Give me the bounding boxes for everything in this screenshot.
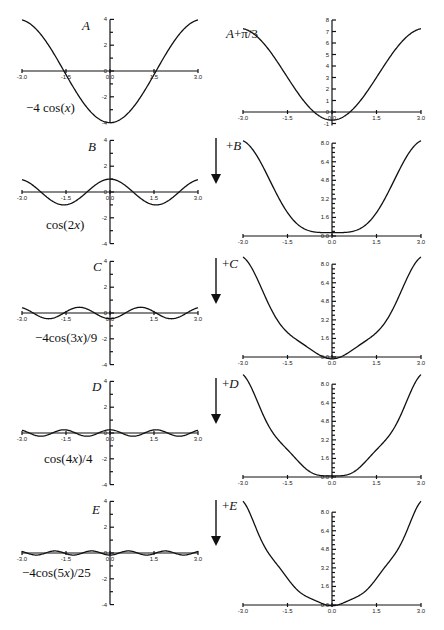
y-tick-label: -2 bbox=[102, 576, 108, 582]
y-tick-label: 4 bbox=[104, 378, 108, 384]
x-tick-label: -3.0 bbox=[17, 195, 28, 201]
x-tick-label: 3.0 bbox=[417, 239, 426, 245]
add-term-label: +B bbox=[226, 138, 241, 153]
x-tick-label: 3.0 bbox=[194, 556, 203, 562]
x-tick-label: 1.5 bbox=[372, 115, 381, 121]
function-label: −4cos(3x)/9 bbox=[35, 330, 97, 345]
x-tick-label: -3.0 bbox=[17, 316, 28, 322]
y-tick-label: 6.4 bbox=[321, 280, 330, 286]
y-tick-label: 2 bbox=[104, 524, 108, 530]
x-tick-label: 0.0 bbox=[328, 360, 337, 366]
y-tick-label: 1.6 bbox=[321, 455, 330, 461]
right-column-partial-sum-plots: -1012345678-3.0-1.50.01.53.00.01.63.24.8… bbox=[238, 17, 426, 614]
plot-left-C: -4-2024-3.0-1.50.01.53.0 bbox=[17, 258, 203, 367]
x-tick-label: 3.0 bbox=[417, 360, 426, 366]
x-tick-label: -1.5 bbox=[282, 360, 293, 366]
x-tick-label: 1.5 bbox=[372, 360, 381, 366]
y-tick-label: 8.0 bbox=[321, 381, 330, 387]
function-label: −4 cos(x) bbox=[26, 100, 75, 115]
x-tick-label: 1.5 bbox=[150, 556, 159, 562]
plot-right-B: 0.01.63.24.86.48.0-3.0-1.50.01.53.0 bbox=[238, 140, 426, 245]
y-tick-label: 8.0 bbox=[321, 140, 330, 146]
x-tick-label: -1.5 bbox=[282, 480, 293, 486]
y-tick-label: 2 bbox=[104, 404, 108, 410]
down-arrow-icon: +D bbox=[211, 376, 239, 424]
y-tick-label: 6.4 bbox=[321, 400, 330, 406]
x-tick-label: 0.0 bbox=[328, 480, 337, 486]
x-tick-label: 3.0 bbox=[194, 74, 203, 80]
y-tick-label: 3.2 bbox=[321, 196, 330, 202]
y-tick-label: 4.8 bbox=[321, 177, 330, 183]
panel-labels: A−4 cos(x)Bcos(2x)C−4cos(3x)/9Dcos(4x)/4… bbox=[22, 18, 258, 580]
x-tick-label: -3.0 bbox=[238, 480, 249, 486]
y-tick-label: 2 bbox=[104, 284, 108, 290]
y-tick-label: 4.8 bbox=[321, 546, 330, 552]
panel-letter-label: D bbox=[91, 379, 102, 394]
y-tick-label: 4.8 bbox=[321, 298, 330, 304]
y-tick-label: 3.2 bbox=[321, 565, 330, 571]
x-tick-label: -1.5 bbox=[61, 195, 72, 201]
x-tick-label: -1.5 bbox=[61, 436, 72, 442]
y-tick-label: 8.0 bbox=[321, 509, 330, 515]
x-tick-label: -3.0 bbox=[238, 115, 249, 121]
x-tick-label: 0.0 bbox=[328, 239, 337, 245]
add-term-label: +D bbox=[222, 376, 239, 391]
y-tick-label: 3 bbox=[326, 75, 330, 81]
add-term-arrows: +B+C+D+E bbox=[211, 138, 241, 546]
y-tick-label: -2 bbox=[102, 456, 108, 462]
x-tick-label: 3.0 bbox=[417, 608, 426, 614]
add-term-label: +E bbox=[222, 498, 237, 513]
y-tick-label: 6.4 bbox=[321, 159, 330, 165]
y-tick-label: 3.2 bbox=[321, 317, 330, 323]
x-tick-label: -1.5 bbox=[61, 316, 72, 322]
y-tick-label: 1.6 bbox=[321, 335, 330, 341]
y-tick-label: 5 bbox=[326, 52, 330, 58]
y-tick-label: -2 bbox=[102, 94, 108, 100]
y-tick-label: 8 bbox=[326, 17, 330, 23]
y-tick-label: 2 bbox=[104, 42, 108, 48]
y-tick-label: 6.4 bbox=[321, 528, 330, 534]
y-tick-label: -4 bbox=[102, 602, 108, 608]
y-tick-label: 3.2 bbox=[321, 437, 330, 443]
y-tick-label: 1.6 bbox=[321, 214, 330, 220]
x-tick-label: 0.0 bbox=[106, 74, 115, 80]
plot-right-E: 0.01.63.24.86.48.0-3.0-1.50.01.53.0 bbox=[238, 501, 426, 614]
x-tick-label: 1.5 bbox=[150, 195, 159, 201]
x-tick-label: 1.5 bbox=[150, 436, 159, 442]
function-label: −4cos(5x)/25 bbox=[22, 565, 91, 580]
x-tick-label: -3.0 bbox=[238, 608, 249, 614]
x-tick-label: -1.5 bbox=[282, 608, 293, 614]
y-tick-label: -1 bbox=[324, 121, 330, 127]
plot-left-B: -4-2024-3.0-1.50.01.53.0 bbox=[17, 137, 203, 246]
y-tick-label: 1 bbox=[326, 98, 330, 104]
x-tick-label: -3.0 bbox=[17, 436, 28, 442]
y-tick-label: -4 bbox=[102, 362, 108, 368]
x-tick-label: 0.0 bbox=[106, 195, 115, 201]
y-tick-label: 4.8 bbox=[321, 418, 330, 424]
y-tick-label: 4 bbox=[104, 16, 108, 22]
x-tick-label: 1.5 bbox=[150, 316, 159, 322]
plot-left-D: -4-2024-3.0-1.50.01.53.0 bbox=[17, 378, 203, 487]
y-tick-label: 4 bbox=[104, 137, 108, 143]
x-tick-label: 3.0 bbox=[417, 480, 426, 486]
x-tick-label: 1.5 bbox=[372, 608, 381, 614]
y-tick-label: -2 bbox=[102, 336, 108, 342]
x-tick-label: -1.5 bbox=[282, 115, 293, 121]
add-term-label: +C bbox=[222, 256, 238, 271]
panel-letter-label: C bbox=[93, 259, 102, 274]
x-tick-label: 3.0 bbox=[194, 195, 203, 201]
x-tick-label: -3.0 bbox=[238, 360, 249, 366]
y-tick-label: -2 bbox=[102, 215, 108, 221]
x-tick-label: -3.0 bbox=[238, 239, 249, 245]
x-tick-label: 1.5 bbox=[372, 239, 381, 245]
y-tick-label: 8.0 bbox=[321, 261, 330, 267]
down-arrow-icon: +E bbox=[211, 498, 237, 546]
x-tick-label: -3.0 bbox=[17, 556, 28, 562]
x-tick-label: -1.5 bbox=[61, 556, 72, 562]
y-tick-label: -4 bbox=[102, 482, 108, 488]
x-tick-label: 0.0 bbox=[106, 556, 115, 562]
y-tick-label: 7 bbox=[326, 29, 330, 35]
x-tick-label: -3.0 bbox=[17, 74, 28, 80]
y-tick-label: -4 bbox=[102, 241, 108, 247]
y-tick-label: 4 bbox=[326, 63, 330, 69]
